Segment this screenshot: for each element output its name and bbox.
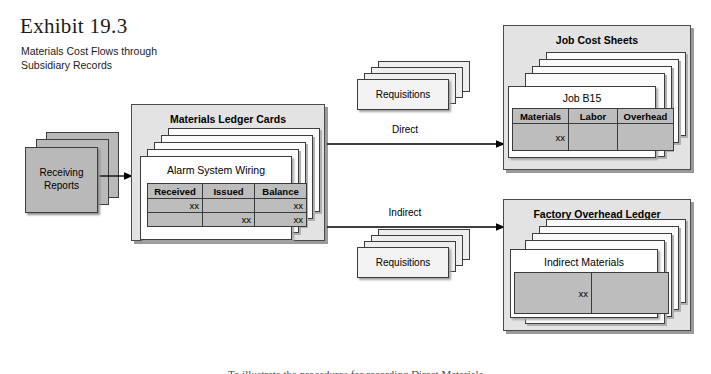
receiving-reports-label-line-1: Receiving	[26, 166, 97, 179]
job-cost-sheets-title: Job Cost Sheets	[504, 34, 690, 46]
exhibit-subtitle-line-2: Subsidiary Records	[21, 58, 157, 72]
exhibit-page: Exhibit 19.3 Materials Cost Flows throug…	[0, 0, 711, 374]
job-cost-sheet-title: Job B15	[509, 92, 655, 104]
job-cost-col-labor: Labor	[569, 109, 618, 124]
factory-overhead-sheet-title: Indirect Materials	[511, 256, 657, 268]
materials-ledger-cards-title: Materials Ledger Cards	[132, 113, 324, 125]
bottom-caption: To illustrate the procedures for recordi…	[0, 368, 711, 374]
factory-overhead-data-row-1: xx	[515, 273, 669, 314]
materials-ledger-table: Received Issued Balance xx xx xx xx	[147, 183, 307, 227]
job-cost-cell-r1c1: xx	[513, 124, 569, 151]
job-cost-sheet-header-row: Materials Labor Overhead	[513, 109, 674, 124]
materials-ledger-data-row-1: xx xx	[148, 199, 307, 213]
direct-flow-label: Direct	[375, 124, 435, 135]
materials-ledger-col-issued: Issued	[203, 184, 255, 199]
arrow-receiving-to-materials	[97, 171, 133, 181]
receiving-reports-label-line-2: Reports	[26, 179, 97, 192]
materials-ledger-cell-r1c3: xx	[255, 199, 307, 213]
job-cost-cell-r1c2	[569, 124, 618, 151]
materials-ledger-card-title: Alarm System Wiring	[141, 164, 291, 176]
materials-ledger-header-row: Received Issued Balance	[148, 184, 307, 199]
exhibit-subtitle: Materials Cost Flows through Subsidiary …	[21, 44, 157, 72]
materials-ledger-cell-r2c1	[148, 213, 203, 227]
receiving-reports-sheet-front: Receiving Reports	[25, 147, 98, 213]
exhibit-subtitle-line-1: Materials Cost Flows through	[21, 44, 157, 58]
factory-overhead-table: xx	[514, 272, 669, 314]
exhibit-number: Exhibit 19.3	[20, 14, 127, 39]
materials-ledger-data-row-2: xx xx	[148, 213, 307, 227]
job-cost-col-overhead: Overhead	[618, 109, 674, 124]
materials-ledger-col-received: Received	[148, 184, 203, 199]
materials-ledger-cell-r2c3: xx	[255, 213, 307, 227]
job-cost-col-materials: Materials	[513, 109, 569, 124]
job-cost-sheet-data-row-1: xx	[513, 124, 674, 151]
factory-overhead-cell-r1c1: xx	[515, 273, 592, 314]
job-cost-sheet-table: Materials Labor Overhead xx	[512, 108, 674, 151]
factory-overhead-cell-r1c2	[592, 273, 669, 314]
indirect-flow-label: Indirect	[373, 207, 437, 218]
materials-ledger-cell-r1c2	[203, 199, 255, 213]
arrow-indirect-to-factory-overhead	[327, 222, 505, 232]
arrow-direct-to-job-cost-sheets	[327, 139, 505, 149]
materials-ledger-cell-r2c2: xx	[203, 213, 255, 227]
receiving-reports-label: Receiving Reports	[26, 166, 97, 192]
requisitions-indirect-slip-front: Requisitions	[357, 247, 449, 278]
job-cost-cell-r1c3	[618, 124, 674, 151]
requisitions-direct-slip-front: Requisitions	[357, 79, 449, 110]
materials-ledger-cell-r1c1: xx	[148, 199, 203, 213]
requisitions-indirect-label: Requisitions	[358, 257, 448, 268]
materials-ledger-col-balance: Balance	[255, 184, 307, 199]
requisitions-direct-label: Requisitions	[358, 89, 448, 100]
